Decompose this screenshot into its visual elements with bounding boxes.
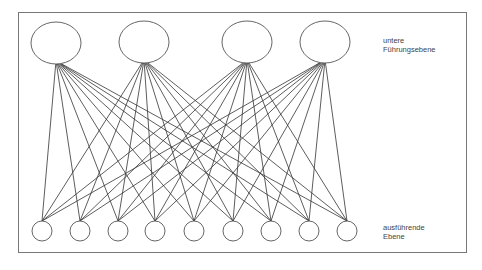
worker-node xyxy=(184,221,204,241)
worker-node xyxy=(261,221,281,241)
execution-level-label-line2: Ebene xyxy=(383,232,425,241)
upper-level-label: untere Führungsebene xyxy=(383,36,436,54)
worker-node xyxy=(108,221,128,241)
worker-node xyxy=(145,221,165,241)
connection-line xyxy=(118,63,143,221)
worker-node xyxy=(32,221,52,241)
connection-line xyxy=(42,64,56,221)
worker-node xyxy=(337,221,357,241)
connection-line xyxy=(247,63,271,221)
connection-line xyxy=(80,63,320,221)
manager-node xyxy=(222,21,272,63)
connection-line xyxy=(57,64,118,221)
manager-node xyxy=(300,21,350,63)
connection-line xyxy=(56,64,80,221)
connection-line xyxy=(61,64,309,221)
execution-level-label-line1: ausführende xyxy=(383,223,425,232)
upper-level-label-line2: Führungsebene xyxy=(383,45,436,54)
connection-line xyxy=(325,63,347,221)
execution-level-label: ausführende Ebene xyxy=(383,223,425,241)
manager-node xyxy=(31,22,81,64)
worker-node xyxy=(70,221,90,241)
connection-line xyxy=(80,63,143,221)
upper-level-label-line1: untere xyxy=(383,36,436,45)
worker-node xyxy=(299,221,319,241)
manager-node xyxy=(119,21,169,63)
worker-node xyxy=(223,221,243,241)
connection-line xyxy=(42,63,142,221)
connection-line xyxy=(249,63,347,221)
connection-line xyxy=(145,63,194,221)
